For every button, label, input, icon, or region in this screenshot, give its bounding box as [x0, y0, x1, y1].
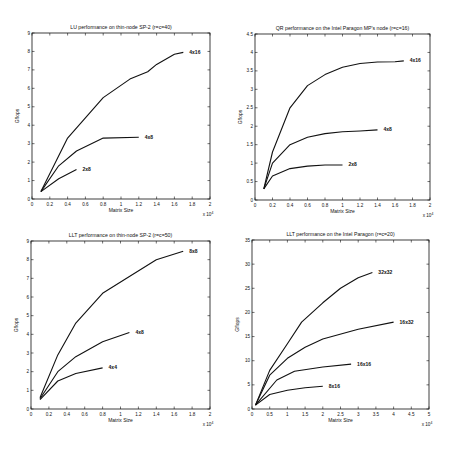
series-line-8x8	[40, 251, 183, 397]
x-tick-label: 1.4	[153, 202, 160, 207]
series-label: 4x8	[145, 134, 154, 140]
x-tick-label: 1.5	[302, 412, 309, 417]
chart-title: LU performance on thin-node SP-2 (r=c=40…	[70, 24, 172, 30]
x-tick-label: 1.4	[153, 412, 160, 417]
chart-title: LLT performance on the Intel Paragon (r=…	[286, 231, 395, 237]
y-axis-label: Gflops	[237, 109, 243, 124]
y-tick-label: 6	[27, 86, 30, 91]
series-label: 4x4	[109, 364, 118, 370]
y-tick-label: 5	[247, 382, 250, 387]
x-tick-label: 1.4	[374, 203, 381, 208]
x-tick-label: 1.8	[189, 412, 196, 417]
y-tick-label: 8	[27, 49, 30, 54]
x-tick-label: 0.6	[82, 412, 89, 417]
y-axis-label: Gflops	[234, 317, 240, 332]
x-tick-label: 0.4	[64, 412, 71, 417]
x-tick-label: 0.8	[100, 202, 107, 207]
series-label: 2x8	[83, 166, 92, 172]
y-tick-label: 5	[27, 104, 30, 109]
series-label: 2x8	[349, 161, 358, 167]
y-tick-label: 5	[26, 313, 29, 318]
x-tick-label: 0.2	[47, 202, 54, 207]
x-tick-label: 0.8	[99, 412, 106, 417]
y-tick-label: 0	[26, 407, 29, 412]
x-tick-label: 0	[251, 412, 254, 417]
x-tick-label: 0	[30, 412, 33, 417]
y-tick-label: 1.5	[247, 142, 254, 147]
y-tick-label: 3	[27, 141, 30, 146]
y-tick-label: 4	[26, 332, 29, 337]
y-tick-label: 35	[245, 238, 251, 243]
y-tick-label: 4.5	[247, 32, 254, 37]
y-tick-label: 6	[26, 295, 29, 300]
y-tick-label: 7	[26, 276, 29, 281]
plot-frame	[32, 33, 210, 199]
x-tick-label: 5	[428, 412, 431, 417]
x-tick-label: 1.6	[171, 412, 178, 417]
series-line-4x16	[264, 61, 404, 189]
y-tick-label: 10	[245, 358, 251, 363]
y-tick-label: 1	[27, 178, 30, 183]
x-tick-label: 1.2	[357, 203, 364, 208]
x-tick-label: 2	[322, 412, 325, 417]
x-exponent-label: x 104	[423, 212, 434, 218]
series-label: 8x16	[329, 383, 340, 389]
series-label: 4x8	[384, 126, 393, 132]
series-line-2x8	[264, 165, 343, 189]
chart-llt-paragon: LLT performance on the Intel Paragon (r=…	[234, 231, 432, 427]
x-tick-label: 3.5	[373, 412, 380, 417]
series-label: 16x32	[400, 319, 414, 325]
x-axis-label: Matrix Size	[109, 207, 134, 213]
series-label: 4x8	[135, 329, 144, 335]
x-axis-label: Matrix Size	[330, 208, 355, 214]
y-tick-label: 3	[26, 351, 29, 356]
x-tick-label: 0.6	[304, 203, 311, 208]
x-tick-label: 0.4	[287, 203, 294, 208]
series-label: 32x32	[378, 269, 392, 275]
x-tick-label: 0.2	[269, 203, 276, 208]
y-tick-label: 20	[245, 310, 251, 315]
y-tick-label: 1	[26, 388, 29, 393]
x-exponent-label: x 104	[203, 421, 214, 427]
x-tick-label: 0.5	[267, 412, 274, 417]
y-tick-label: 1	[250, 161, 253, 166]
y-tick-label: 2	[26, 369, 29, 374]
x-tick-label: 4	[392, 412, 395, 417]
y-tick-label: 2	[250, 124, 253, 129]
x-exponent-label: x 104	[422, 421, 433, 427]
series-line-4x16	[41, 52, 183, 191]
x-tick-label: 1.6	[392, 203, 399, 208]
x-tick-label: 1.2	[136, 202, 143, 207]
x-tick-label: 0.6	[82, 202, 89, 207]
series-label: 8x8	[189, 248, 198, 254]
x-tick-label: 3	[357, 412, 360, 417]
x-tick-label: 0.4	[64, 202, 71, 207]
chart-title: QR performance on the Intel Paragon MP's…	[276, 25, 410, 31]
x-tick-label: 2	[209, 202, 212, 207]
chart-title: LLT performance on thin-node SP-2 (r=c=5…	[69, 232, 173, 238]
chart-qr-paragon: QR performance on the Intel Paragon MP's…	[237, 25, 433, 218]
series-line-4x8	[264, 130, 378, 189]
y-tick-label: 0	[247, 407, 250, 412]
x-tick-label: 2	[429, 203, 432, 208]
y-tick-label: 0	[27, 197, 30, 202]
x-tick-label: 2	[209, 412, 212, 417]
x-tick-label: 0	[254, 203, 257, 208]
x-exponent-label: x 104	[203, 211, 214, 217]
y-axis-label: Gflops	[13, 317, 19, 332]
y-tick-label: 25	[245, 286, 251, 291]
y-tick-label: 15	[245, 334, 251, 339]
x-axis-label: Matrix Size	[328, 417, 353, 423]
y-tick-label: 2	[27, 160, 30, 165]
plot-frame	[31, 241, 210, 409]
x-tick-label: 1.6	[171, 202, 178, 207]
series-line-4x8	[41, 137, 139, 191]
y-tick-label: 2.5	[247, 105, 254, 110]
chart-llt-sp2: LLT performance on thin-node SP-2 (r=c=5…	[13, 232, 213, 427]
y-tick-label: 3	[250, 87, 253, 92]
x-tick-label: 0.2	[46, 412, 53, 417]
x-tick-label: 4.5	[408, 412, 415, 417]
y-tick-label: 0	[250, 198, 253, 203]
plot-frame	[255, 34, 430, 200]
x-tick-label: 1	[286, 412, 289, 417]
